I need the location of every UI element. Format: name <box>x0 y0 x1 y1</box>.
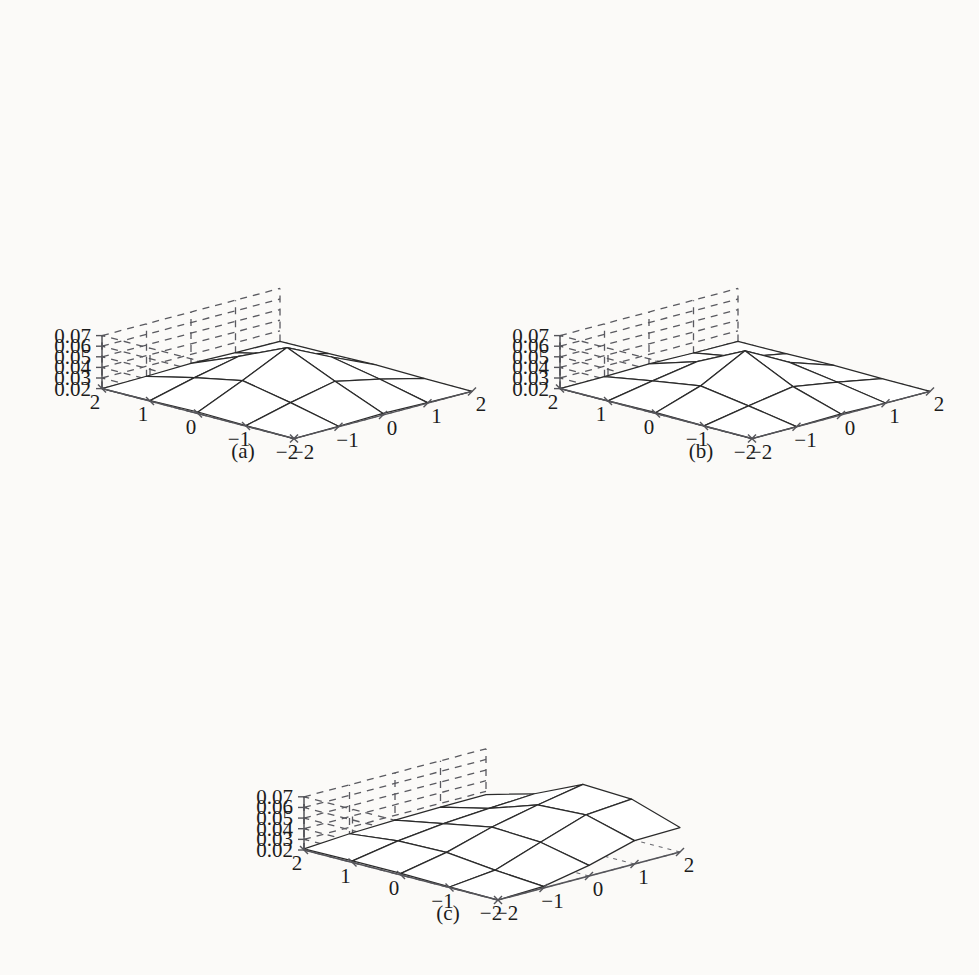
z-tick-label: 0.02 <box>512 377 549 401</box>
panel-a: 0.070.060.050.040.030.02210−1−2−2−1012(a… <box>0 18 489 478</box>
surface-plot-c: 0.070.060.050.040.030.02210−1−2−2−1012(c… <box>230 468 770 938</box>
y-tick-label: 0 <box>387 416 398 440</box>
surface-mesh <box>304 784 680 900</box>
panel-caption: (c) <box>436 901 459 925</box>
x-tick-label: 1 <box>138 402 149 426</box>
surface-plot-b: 0.070.060.050.040.030.02210−1−2−2−1012(b… <box>460 18 949 478</box>
figure-surface-plots: 0.070.060.050.040.030.02210−1−2−2−1012(a… <box>0 0 979 975</box>
x-tick-label: 1 <box>596 402 607 426</box>
y-tick-label: 2 <box>684 853 695 877</box>
panel-caption: (b) <box>689 439 714 463</box>
y-tick-label: 0 <box>845 416 856 440</box>
y-tick-label: 2 <box>934 392 945 416</box>
x-tick-label: 2 <box>90 390 101 414</box>
panel-c: 0.070.060.050.040.030.02210−1−2−2−1012(c… <box>230 468 770 938</box>
y-tick-label: 1 <box>638 865 649 889</box>
x-tick-label: 2 <box>548 390 559 414</box>
z-tick-label: 0.02 <box>54 377 91 401</box>
surface-mesh <box>102 341 472 438</box>
y-tick-label: −1 <box>336 428 358 452</box>
y-tick-label: 0 <box>593 877 604 901</box>
y-tick-label: −2 <box>750 440 772 464</box>
z-tick-label: 0.02 <box>256 838 293 862</box>
surface-mesh <box>560 341 930 438</box>
panel-caption: (a) <box>231 439 254 463</box>
panel-b: 0.070.060.050.040.030.02210−1−2−2−1012(b… <box>460 18 949 478</box>
x-tick-label: 0 <box>186 415 197 439</box>
y-tick-label: −2 <box>292 440 314 464</box>
x-tick-label: 0 <box>389 876 400 900</box>
y-tick-label: −1 <box>541 889 563 913</box>
x-tick-label: 0 <box>644 415 655 439</box>
y-tick-label: 1 <box>431 404 442 428</box>
y-tick-label: 1 <box>889 404 900 428</box>
x-tick-label: 1 <box>340 864 351 888</box>
surface-plot-a: 0.070.060.050.040.030.02210−1−2−2−1012(a… <box>0 18 489 478</box>
y-tick-label: −2 <box>496 901 518 925</box>
y-tick-label: −1 <box>794 428 816 452</box>
x-tick-label: 2 <box>292 851 303 875</box>
